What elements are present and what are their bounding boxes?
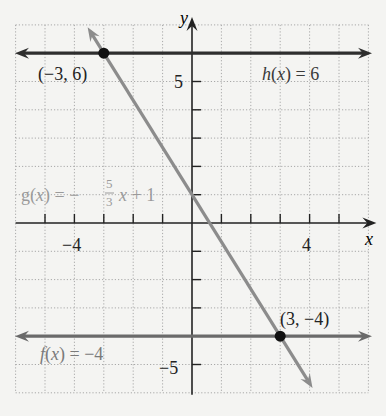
g-fraction-numerator: 5 [106,176,113,191]
coordinate-plane: y x −4 4 5 −5 (−3, 6) (3, −4) h(x) = 6 g… [0,0,386,416]
point-label-neg3-6: (−3, 6) [38,64,87,85]
svg-text:x + 1: x + 1 [118,185,155,205]
f-function-label: f(x) = −4 [40,344,103,365]
y-axis-label: y [178,8,188,28]
graph-figure: y x −4 4 5 −5 (−3, 6) (3, −4) h(x) = 6 g… [0,0,386,416]
x-tick-label-neg4: −4 [62,235,81,255]
intersection-point [98,48,109,59]
function-line-g [92,35,307,381]
g-function-label: g(x) = − 5 3 x + 1 [21,176,155,209]
x-tick-label-4: 4 [302,235,311,255]
x-axis-label: x [364,229,373,249]
point-label-3-neg4: (3, −4) [280,309,329,330]
h-function-label: h(x) = 6 [262,64,319,85]
svg-text:g(x) = −: g(x) = − [21,185,79,206]
intersection-point [275,331,286,342]
y-tick-label-5: 5 [174,72,183,92]
y-tick-label-neg5: −5 [159,358,178,378]
g-fraction-denominator: 3 [106,194,113,209]
